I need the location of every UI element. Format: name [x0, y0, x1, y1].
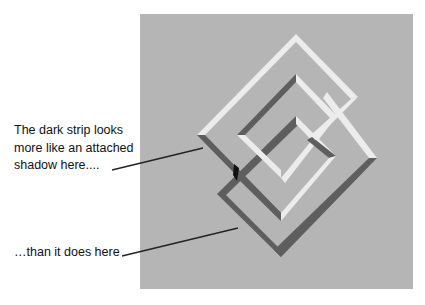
caption-line: more like an attached [14, 140, 154, 158]
annotation-attached-shadow: The dark strip looks more like an attach… [14, 122, 154, 175]
caption-line: The dark strip looks [14, 122, 154, 140]
caption-line: shadow here.... [14, 157, 154, 175]
annotation-than-here: …than it does here [14, 244, 120, 262]
